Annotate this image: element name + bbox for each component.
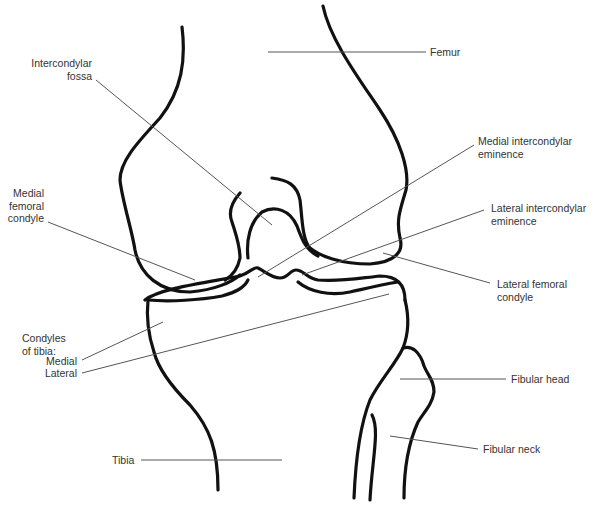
tibia-medial-outline xyxy=(147,300,218,490)
leader-medial-femoral-condyle xyxy=(48,222,195,280)
femur-medial-outline xyxy=(120,27,240,292)
intercondylar-fossa-arch xyxy=(225,193,240,280)
label-medial-intercondylar-eminence: Medial intercondylar eminence xyxy=(478,135,572,160)
leader-fibular-neck xyxy=(390,436,478,449)
tibia-lateral-outline xyxy=(354,300,408,498)
leader-intercondylar-fossa xyxy=(96,80,272,225)
label-tibia: Tibia xyxy=(112,454,134,467)
label-lateral-femoral-condyle: Lateral femoral condyle xyxy=(497,278,567,303)
fibular-head-outline xyxy=(403,347,434,498)
leader-condyle-lateral xyxy=(82,294,389,373)
fibular-neck-outline xyxy=(370,415,375,500)
label-intercondylar-fossa: Intercondylar fossa xyxy=(20,57,92,82)
femur-lateral-outline xyxy=(272,6,407,264)
leader-lateral-femoral-condyle xyxy=(383,253,490,283)
label-condyle-medial: Medial xyxy=(20,355,77,368)
label-medial-femoral-condyle: Medial femoral condyle xyxy=(0,187,44,225)
leader-medial-intercondylar-eminence xyxy=(258,145,474,277)
tibial-plateau-eminence xyxy=(145,268,405,300)
label-lateral-intercondylar-eminence: Lateral intercondylar eminence xyxy=(491,202,586,227)
knee-anatomy-diagram: Femur Intercondylar fossa Medial femoral… xyxy=(0,0,596,510)
leader-lateral-intercondylar-eminence xyxy=(302,210,484,275)
lateral-meniscus xyxy=(298,282,398,294)
label-fibular-head: Fibular head xyxy=(511,373,569,386)
label-femur: Femur xyxy=(430,46,460,59)
label-condyle-lateral: Lateral xyxy=(20,367,77,380)
intercondylar-notch xyxy=(248,209,318,258)
label-condyles-of-tibia: Condyles of tibia: xyxy=(22,332,66,357)
label-fibular-neck: Fibular neck xyxy=(483,443,540,456)
